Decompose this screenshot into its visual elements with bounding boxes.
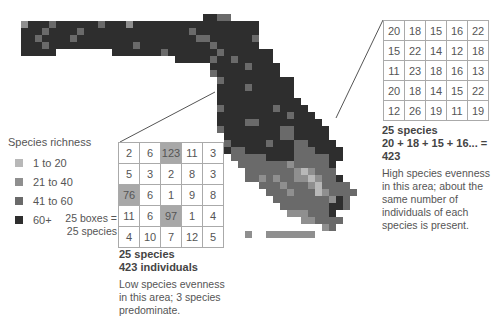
grid-row: 2 6 123 11 3 <box>119 143 224 164</box>
grid-cell: 22 <box>468 21 489 41</box>
grid-cell: 14 <box>426 41 447 61</box>
grid-row: 15 22 14 12 18 <box>384 41 489 61</box>
grid-cell: 1 <box>182 206 203 227</box>
legend-title: Species richness <box>8 136 91 148</box>
legend-label: 60+ <box>33 214 52 226</box>
grid-cell: 9 <box>182 185 203 206</box>
grid-cell: 16 <box>447 61 468 81</box>
grid-row: 11 23 18 16 13 <box>384 61 489 81</box>
grid-cell: 15 <box>447 81 468 101</box>
grid-cell: 11 <box>447 101 468 121</box>
grid-cell: 8 <box>203 185 224 206</box>
legend-item-21-to-40: 21 to 40 <box>8 172 91 191</box>
grid-cell: 4 <box>119 227 140 248</box>
grid-cell-highlighted: 123 <box>161 143 182 164</box>
grid-cell: 13 <box>468 61 489 81</box>
grid-cell: 26 <box>405 101 426 121</box>
grid-cell: 10 <box>140 227 161 248</box>
note-heading-individuals: 423 individuals <box>119 261 227 274</box>
legend-swatch-icon <box>15 159 23 167</box>
low-evenness-sample-grid: 2 6 123 11 3 5 3 2 8 3 76 6 1 9 8 11 6 9… <box>118 142 224 248</box>
grid-cell: 5 <box>119 164 140 185</box>
grid-cell: 18 <box>426 61 447 81</box>
grid-cell: 19 <box>468 101 489 121</box>
note-heading-species: 25 species <box>119 248 227 261</box>
grid-cell: 6 <box>140 143 161 164</box>
low-evenness-note: 25 species 423 individuals Low species e… <box>119 248 227 317</box>
legend-label: 1 to 20 <box>33 157 67 169</box>
grid-cell: 19 <box>426 101 447 121</box>
note-heading-species: 25 species <box>382 124 494 137</box>
grid-cell: 22 <box>468 81 489 101</box>
high-evenness-note: 25 species 20 + 18 + 15 + 16... = 423 Hi… <box>382 124 494 232</box>
grid-cell: 12 <box>384 101 405 121</box>
legend-label: 41 to 60 <box>33 195 73 207</box>
grid-cell: 20 <box>384 81 405 101</box>
boxes-equals-species-label: 25 boxes = 25 species <box>62 212 117 238</box>
note-description: Low species evenness in this area; 3 spe… <box>119 278 227 317</box>
boxes-label-line1: 25 boxes = <box>62 212 117 225</box>
grid-row: 4 10 7 12 5 <box>119 227 224 248</box>
grid-cell: 3 <box>140 164 161 185</box>
grid-cell: 11 <box>119 206 140 227</box>
grid-cell: 3 <box>203 164 224 185</box>
legend-swatch-icon <box>15 178 23 186</box>
legend-label: 21 to 40 <box>33 176 73 188</box>
grid-cell: 4 <box>203 206 224 227</box>
grid-row: 76 6 1 9 8 <box>119 185 224 206</box>
legend-item-41-to-60: 41 to 60 <box>8 191 91 210</box>
note-heading-sum: 20 + 18 + 15 + 16... = 423 <box>382 137 494 163</box>
grid-cell: 14 <box>426 81 447 101</box>
grid-cell: 2 <box>161 164 182 185</box>
grid-cell: 22 <box>405 41 426 61</box>
grid-cell: 18 <box>468 41 489 61</box>
grid-cell: 20 <box>384 21 405 41</box>
grid-cell: 6 <box>140 206 161 227</box>
grid-cell: 11 <box>182 143 203 164</box>
high-evenness-sample-grid: 20 18 15 16 22 15 22 14 12 18 11 23 18 1… <box>383 20 489 121</box>
grid-cell: 18 <box>405 21 426 41</box>
legend-swatch-icon <box>15 216 23 224</box>
grid-cell: 23 <box>405 61 426 81</box>
grid-cell-highlighted: 97 <box>161 206 182 227</box>
boxes-label-line2: 25 species <box>62 225 117 238</box>
grid-row: 20 18 14 15 22 <box>384 81 489 101</box>
note-description: High species evenness in this area; abou… <box>382 167 494 232</box>
grid-row: 12 26 19 11 19 <box>384 101 489 121</box>
grid-row: 5 3 2 8 3 <box>119 164 224 185</box>
grid-cell: 16 <box>447 21 468 41</box>
grid-row: 11 6 97 1 4 <box>119 206 224 227</box>
grid-cell: 3 <box>203 143 224 164</box>
grid-cell-highlighted: 76 <box>119 185 140 206</box>
grid-cell: 1 <box>161 185 182 206</box>
grid-cell: 12 <box>182 227 203 248</box>
legend-item-1-to-20: 1 to 20 <box>8 153 91 172</box>
grid-cell: 11 <box>384 61 405 81</box>
grid-cell: 8 <box>182 164 203 185</box>
grid-row: 20 18 15 16 22 <box>384 21 489 41</box>
legend-swatch-icon <box>15 197 23 205</box>
grid-cell: 5 <box>203 227 224 248</box>
grid-cell: 12 <box>447 41 468 61</box>
grid-cell: 6 <box>140 185 161 206</box>
grid-cell: 15 <box>426 21 447 41</box>
grid-cell: 2 <box>119 143 140 164</box>
grid-cell: 18 <box>405 81 426 101</box>
grid-cell: 15 <box>384 41 405 61</box>
grid-cell: 7 <box>161 227 182 248</box>
